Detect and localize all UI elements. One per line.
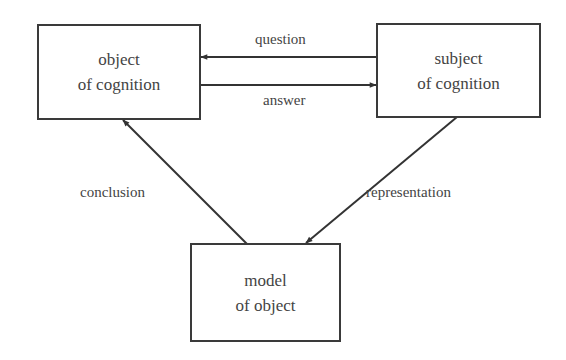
- representation-label: representation: [366, 184, 451, 201]
- answer-label: answer: [263, 92, 305, 109]
- object-box-line1: object: [98, 47, 140, 72]
- model-of-object-box: model of object: [190, 243, 341, 342]
- cognition-diagram: object of cognition subject of cognition…: [0, 0, 566, 360]
- model-box-line1: model: [244, 268, 287, 293]
- conclusion-arrow: [123, 120, 247, 244]
- subject-box-line2: of cognition: [417, 71, 500, 96]
- model-box-line2: of object: [236, 293, 296, 318]
- conclusion-label: conclusion: [80, 184, 145, 201]
- object-box-line2: of cognition: [78, 72, 161, 97]
- subject-of-cognition-box: subject of cognition: [376, 23, 541, 118]
- subject-box-line1: subject: [434, 46, 482, 71]
- question-label: question: [255, 31, 306, 48]
- object-of-cognition-box: object of cognition: [37, 24, 201, 120]
- representation-arrow: [306, 117, 457, 243]
